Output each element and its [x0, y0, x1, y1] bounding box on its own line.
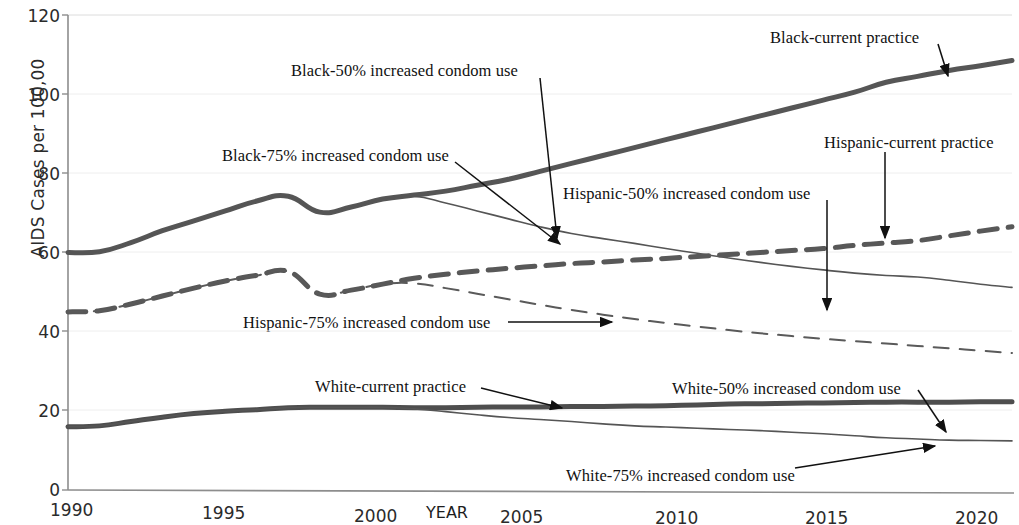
series-black-current-practice — [68, 61, 1012, 253]
data-series-layer — [68, 61, 1012, 441]
series-black-75-increased-condom-use — [68, 196, 1012, 288]
leader-white-75 — [795, 446, 935, 468]
gridlines — [68, 15, 1012, 410]
series-white-current-practice — [68, 402, 1012, 427]
plot-canvas — [0, 0, 1019, 525]
aids-cases-line-chart: AIDS Cases per 100,00 120 100 80 60 40 2… — [0, 0, 1019, 525]
leader-white-50 — [918, 390, 946, 432]
series-white-75-increased-condom-use — [68, 407, 1012, 441]
series-hispanic-current-practice — [68, 227, 1012, 312]
leader-black-75 — [455, 162, 560, 244]
leader-black-50 — [540, 78, 557, 238]
